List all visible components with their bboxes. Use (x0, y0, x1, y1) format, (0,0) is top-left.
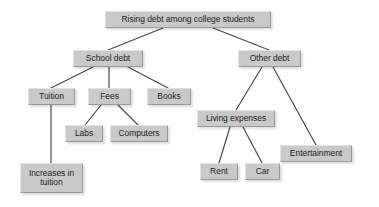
node-computers[interactable]: Computers (110, 125, 168, 142)
node-fees[interactable]: Fees (88, 88, 131, 105)
edge-fees-to-computers (118, 105, 138, 125)
edge-other-to-entertainment (273, 67, 316, 145)
node-increases[interactable]: Increases in tuition (20, 163, 83, 193)
node-books[interactable]: Books (147, 88, 191, 105)
edge-school-to-tuition (51, 67, 93, 88)
edge-other-to-living (236, 67, 262, 110)
edge-root-to-other (213, 28, 269, 50)
edge-living-to-car (243, 127, 262, 163)
node-other[interactable]: Other debt (238, 50, 301, 67)
node-rent[interactable]: Rent (200, 163, 238, 180)
node-living[interactable]: Living expenses (197, 110, 275, 127)
node-car[interactable]: Car (245, 163, 280, 180)
edge-fees-to-labs (85, 105, 101, 125)
node-school[interactable]: School debt (73, 50, 143, 67)
node-tuition[interactable]: Tuition (28, 88, 75, 105)
edge-living-to-rent (219, 127, 230, 163)
edge-school-to-books (128, 67, 168, 88)
edge-root-to-school (108, 28, 163, 50)
node-entertainment[interactable]: Entertainment (280, 145, 352, 162)
node-labs[interactable]: Labs (65, 125, 103, 142)
concept-map-canvas: Rising debt among college studentsSchool… (0, 0, 379, 207)
node-root[interactable]: Rising debt among college students (105, 11, 271, 28)
